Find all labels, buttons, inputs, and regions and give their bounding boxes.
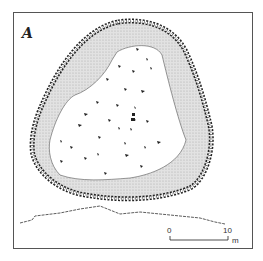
profile-section xyxy=(20,206,225,224)
scale-unit-label: m xyxy=(232,236,239,245)
site-plan xyxy=(0,0,263,261)
north-arrow-icon: A xyxy=(22,25,33,41)
scale-start-label: 0 xyxy=(167,226,171,235)
scale-bar xyxy=(170,236,228,240)
scale-end-label: 10 xyxy=(223,226,232,235)
